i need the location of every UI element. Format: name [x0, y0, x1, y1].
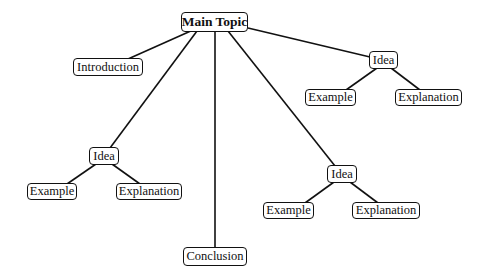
edge-main-introduction	[128, 30, 193, 59]
node-idea-right-explanation[interactable]: Explanation	[395, 89, 462, 106]
mind-map-canvas: Main Topic Introduction Idea Example Exp…	[0, 0, 485, 278]
connector-lines	[0, 0, 485, 278]
edge-idea-right-explanation	[391, 68, 420, 90]
edge-main-idea-right	[248, 28, 370, 57]
node-main-topic[interactable]: Main Topic	[181, 12, 248, 32]
edge-idea-left-example	[67, 164, 96, 184]
node-idea-left-example[interactable]: Example	[27, 183, 77, 200]
node-introduction[interactable]: Introduction	[73, 58, 143, 76]
node-idea-left[interactable]: Idea	[89, 147, 119, 165]
edge-main-idea-left	[110, 31, 197, 148]
edge-idea-right-example	[346, 68, 377, 90]
edge-idea-middle-explanation	[350, 182, 378, 203]
node-idea-middle-explanation[interactable]: Explanation	[352, 202, 420, 219]
node-idea-right-example[interactable]: Example	[305, 89, 356, 106]
node-idea-middle[interactable]: Idea	[327, 165, 357, 183]
edge-idea-left-explanation	[112, 164, 140, 184]
node-conclusion[interactable]: Conclusion	[183, 247, 247, 266]
edge-idea-middle-example	[305, 182, 334, 203]
node-idea-left-explanation[interactable]: Explanation	[116, 183, 182, 200]
node-idea-middle-example[interactable]: Example	[263, 202, 314, 219]
node-idea-right[interactable]: Idea	[369, 51, 398, 69]
